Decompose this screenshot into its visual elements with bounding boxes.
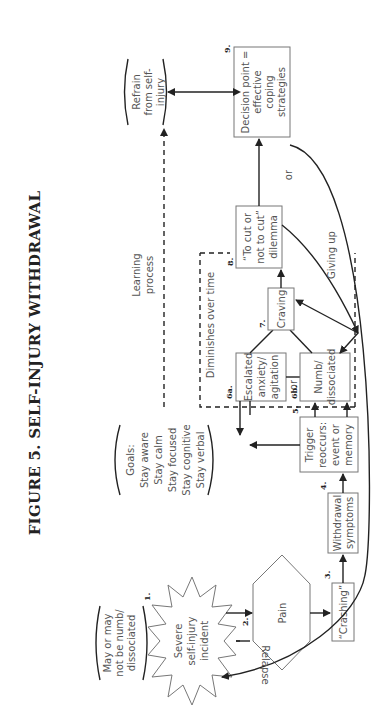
relapse-label: Relapse <box>260 645 271 684</box>
svg-text:Withdrawal: Withdrawal <box>332 495 343 551</box>
svg-text:Escalated: Escalated <box>243 353 254 401</box>
node-1-severe-incident: 1. Severe self-injury incident <box>142 577 236 705</box>
line-6b-to-craving <box>290 330 312 353</box>
svg-text:Severe: Severe <box>173 624 184 659</box>
svg-text:Stay focused: Stay focused <box>167 428 178 493</box>
svg-text:injury: injury <box>155 78 166 106</box>
svg-text:6b.: 6b. <box>289 385 299 399</box>
svg-text:Trigger: Trigger <box>304 427 315 463</box>
svg-text:Stay aware: Stay aware <box>139 432 150 488</box>
svg-text:7.: 7. <box>257 319 267 328</box>
figure-title: FIGURE 5. SELF-INJURY WITHDRAWAL <box>26 191 44 536</box>
svg-text:strategies: strategies <box>276 67 287 117</box>
or-label-9: or <box>283 169 294 180</box>
svg-text:Goals:: Goals: <box>125 444 136 475</box>
svg-text:Craving: Craving <box>276 290 287 329</box>
learning-label: Learning <box>131 253 142 296</box>
svg-text:memory: memory <box>343 424 354 466</box>
note-numb-dissociated: May or may not be numb/ dissociated <box>96 606 147 680</box>
svg-text:anxiety/: anxiety/ <box>256 356 267 397</box>
svg-text:coping: coping <box>264 75 275 108</box>
node-4-withdrawal-symptoms: 4. Withdrawal symptoms <box>318 481 358 553</box>
svg-text:Decision point =: Decision point = <box>240 51 251 134</box>
svg-text:8.: 8. <box>225 257 235 266</box>
svg-text:Stay cognitive: Stay cognitive <box>181 424 192 495</box>
svg-text:Numb/: Numb/ <box>313 360 324 394</box>
node-7-craving: 7. Craving <box>257 288 294 330</box>
node-9-decision-point: 9. Decision point = effective coping str… <box>222 44 290 137</box>
svg-text:May or may: May or may <box>102 613 113 672</box>
svg-text:reoccurs:: reoccurs: <box>317 422 328 468</box>
diminishes-label: Diminishes over time <box>205 272 216 378</box>
svg-text:not to cut”: not to cut” <box>255 210 266 264</box>
svg-text:“To cut or: “To cut or <box>242 212 253 261</box>
svg-text:Stay calm: Stay calm <box>153 435 164 485</box>
svg-text:3.: 3. <box>322 570 332 579</box>
svg-text:6a.: 6a. <box>224 385 234 399</box>
giving-up-label: Giving up <box>326 231 337 279</box>
svg-text:Refrain: Refrain <box>131 74 142 110</box>
svg-text:9.: 9. <box>222 44 232 53</box>
svg-text:“Crashing”: “Crashing” <box>338 585 349 639</box>
svg-text:not be numb/: not be numb/ <box>114 609 125 677</box>
svg-text:1.: 1. <box>142 592 152 601</box>
svg-text:Pain: Pain <box>277 603 288 624</box>
svg-text:incident: incident <box>199 621 210 661</box>
svg-text:from self-: from self- <box>143 68 154 116</box>
diagram-canvas: FIGURE 5. SELF-INJURY WITHDRAWAL May or … <box>0 0 377 725</box>
goals-list: Goals: Stay aware Stay calm Stay focused… <box>115 424 213 495</box>
svg-text:process: process <box>144 256 155 294</box>
line-6a-to-craving <box>250 330 273 353</box>
node-5-trigger-reoccurs: 5. Trigger reoccurs: event or memory <box>290 405 358 472</box>
svg-text:dissociated: dissociated <box>326 349 337 406</box>
svg-text:Stay verbal: Stay verbal <box>195 432 206 489</box>
svg-text:agitation: agitation <box>269 355 280 399</box>
svg-text:self-injury: self-injury <box>186 616 197 665</box>
svg-text:dissociated: dissociated <box>126 615 137 672</box>
refrain-from-self-injury: Refrain from self- injury <box>125 59 167 125</box>
svg-text:dilemma: dilemma <box>268 215 279 259</box>
svg-text:symptoms: symptoms <box>344 497 355 549</box>
node-6a-escalated-anxiety: 6a. Escalated anxiety/ agitation <box>224 353 286 401</box>
node-8-to-cut-dilemma: 8. “To cut or not to cut” dilemma <box>225 206 282 268</box>
svg-text:event or: event or <box>330 423 341 466</box>
svg-text:2.: 2. <box>240 617 250 626</box>
arrow-giving-up-craving <box>296 300 358 333</box>
svg-text:effective: effective <box>252 70 263 113</box>
svg-text:4.: 4. <box>318 481 328 490</box>
